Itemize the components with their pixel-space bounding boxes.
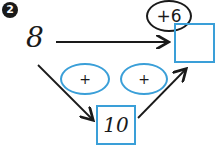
step2-operation-ellipse[interactable]: + [120,63,168,95]
intermediate-value-box: 10 [96,105,136,145]
exercise-number-badge: 2 [2,2,18,18]
result-answer-box[interactable] [174,23,215,63]
step1-operation-ellipse[interactable]: + [60,63,110,95]
start-value: 8 [26,24,44,52]
